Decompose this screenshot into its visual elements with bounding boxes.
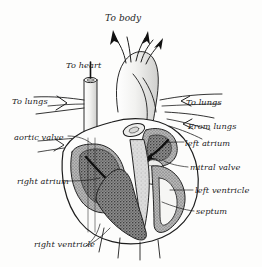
label-to-lungs-right: To lungs xyxy=(186,98,222,106)
label-right-ventricle: right ventricle xyxy=(34,240,95,248)
label-to-lungs-left: To lungs xyxy=(12,97,48,105)
label-to-body: To body xyxy=(105,14,141,23)
label-left-ventricle: left ventricle xyxy=(195,186,249,194)
label-septum: septum xyxy=(196,207,227,215)
label-aortic-valve: aortic valve xyxy=(14,133,64,141)
label-mitral-valve: mitral valve xyxy=(190,163,241,171)
label-right-atrium: right atrium xyxy=(17,177,69,185)
label-to-heart: To heart xyxy=(66,61,101,69)
label-from-lungs: From lungs xyxy=(188,122,237,130)
label-left-atrium: left atrium xyxy=(185,139,230,147)
heart-diagram-figure: To body To heart To lungs aortic valve r… xyxy=(0,0,262,267)
